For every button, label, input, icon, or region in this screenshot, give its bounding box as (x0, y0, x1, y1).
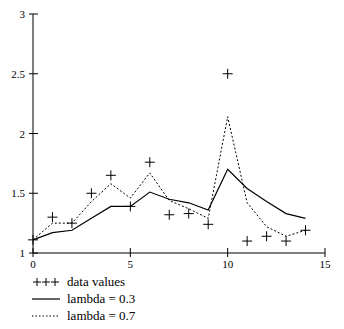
solid-line-icon (32, 291, 60, 307)
x-tick-label: 15 (320, 258, 332, 270)
data-point-marker (106, 170, 116, 180)
dotted-line-icon (32, 308, 60, 324)
legend-label: lambda = 0.3 (67, 291, 135, 307)
y-tick-label: 1 (20, 247, 26, 259)
legend-item-lambda-07: lambda = 0.7 (0, 308, 200, 324)
data-point-marker (47, 212, 57, 222)
y-tick-label: 2.5 (11, 68, 25, 80)
x-tick-label: 10 (222, 258, 234, 270)
series-line-lambda-03 (33, 169, 306, 240)
x-tick-label: 5 (128, 258, 134, 270)
data-point-marker (262, 231, 272, 241)
data-point-marker (145, 157, 155, 167)
data-point-marker (164, 210, 174, 220)
y-tick-label: 2 (20, 128, 26, 140)
data-point-marker (86, 188, 96, 198)
legend-item-lambda-03: lambda = 0.3 (0, 291, 200, 307)
axes: 05101511.522.53 (11, 8, 331, 270)
data-point-marker (203, 219, 213, 229)
data-point-marker (242, 236, 252, 246)
plus-marker-icon (32, 274, 60, 290)
data-point-marker (184, 209, 194, 219)
y-tick-label: 1.5 (11, 187, 25, 199)
y-tick-label: 3 (20, 8, 26, 20)
plot-series (28, 69, 311, 246)
series-line-lambda-07 (33, 117, 306, 240)
data-point-marker (223, 69, 233, 79)
legend-label: lambda = 0.7 (67, 308, 135, 324)
data-point-marker (281, 236, 291, 246)
legend-item-data-values: data values (0, 274, 200, 290)
x-tick-label: 0 (30, 258, 36, 270)
legend-label: data values (67, 274, 125, 290)
